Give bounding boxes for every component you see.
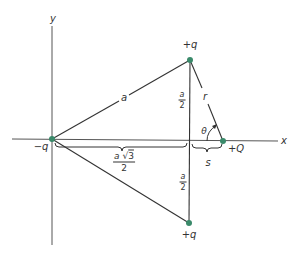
charge-left-label: −q <box>34 142 49 152</box>
diagram-graphics <box>0 0 299 257</box>
sqrt-radicand: 3 <box>128 151 134 161</box>
r-line-segment-1 <box>190 60 202 88</box>
height-numerator: a √3 <box>113 152 135 163</box>
half-a-top-denominator: 2 <box>179 101 184 110</box>
height-numerator-a: a <box>114 151 120 161</box>
sqrt-symbol: √3 <box>122 151 133 161</box>
charge-test-dot <box>220 138 226 144</box>
theta-label: θ <box>201 127 207 136</box>
x-axis-label: x <box>281 136 287 146</box>
height-denominator: 2 <box>121 163 127 173</box>
half-a-top-fraction: a 2 <box>179 91 186 110</box>
vertical-side <box>189 60 190 223</box>
charge-top-label: +q <box>183 40 198 50</box>
charge-bottom-label: +q <box>182 230 197 240</box>
side-a-upper-segment-1 <box>52 101 119 139</box>
height-fraction: a √3 2 <box>113 152 135 173</box>
half-a-bottom-numerator: a <box>180 173 187 183</box>
r-label: r <box>203 92 207 102</box>
charge-bottom-dot <box>186 220 192 226</box>
s-label: s <box>205 158 210 168</box>
charge-test-label: +Q <box>228 144 244 154</box>
y-axis-label: y <box>50 14 56 24</box>
r-line-segment-2 <box>208 104 223 141</box>
s-brace <box>192 144 222 152</box>
half-a-top-numerator: a <box>179 91 186 101</box>
half-a-bottom-fraction: a 2 <box>180 173 187 192</box>
charge-top-dot <box>187 57 193 63</box>
half-a-bottom-denominator: 2 <box>180 183 185 192</box>
diagram-canvas: y x −q +q +q +Q a r θ s a 2 a 2 a √3 2 <box>0 0 299 257</box>
side-a-label: a <box>121 93 127 103</box>
charge-left-dot <box>49 136 55 142</box>
